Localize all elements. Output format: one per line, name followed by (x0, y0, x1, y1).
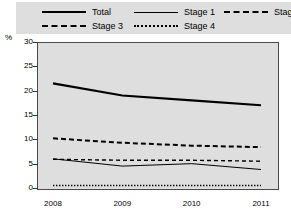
y-tick-label-30: 30 (5, 37, 33, 46)
y-tick-mark-10 (33, 139, 38, 140)
chart-screenshot: Total Stage 1 Stage 2 Stage 3 Stage 4 (0, 0, 291, 216)
series-line-stage-3 (53, 159, 261, 161)
legend-label-stage-3: Stage 3 (92, 21, 123, 31)
y-tick-mark-20 (33, 91, 38, 92)
legend-item-stage-3: Stage 3 (42, 19, 123, 33)
legend-row-1: Total Stage 1 Stage 2 (16, 5, 291, 19)
y-axis-tick-labels: 302520151050 (0, 0, 33, 216)
legend-label-stage-4: Stage 4 (184, 21, 215, 31)
chart-legend: Total Stage 1 Stage 2 Stage 3 Stage 4 (16, 2, 291, 34)
x-tick-label-2011: 2011 (241, 199, 281, 208)
series-line-stage-2 (53, 138, 261, 147)
solid-thin-line-icon (134, 7, 178, 17)
y-tick-label-5: 5 (5, 159, 33, 168)
y-tick-label-0: 0 (5, 183, 33, 192)
legend-item-stage-1: Stage 1 (134, 5, 215, 19)
x-tick-label-2009: 2009 (102, 199, 142, 208)
y-tick-mark-5 (33, 164, 38, 165)
solid-thick-line-icon (42, 7, 86, 17)
legend-label-stage-2: Stage 2 (274, 7, 291, 17)
x-tick-label-2010: 2010 (172, 199, 212, 208)
legend-item-total: Total (42, 5, 111, 19)
legend-row-2: Stage 3 Stage 4 (16, 19, 291, 33)
dashed-thin-line-icon (42, 21, 86, 31)
dashed-line-icon (224, 7, 268, 17)
y-tick-label-20: 20 (5, 86, 33, 95)
legend-item-stage-4: Stage 4 (134, 19, 215, 33)
x-tick-label-2008: 2008 (33, 199, 73, 208)
y-tick-mark-30 (33, 42, 38, 43)
y-tick-label-10: 10 (5, 134, 33, 143)
dotted-line-icon (134, 21, 178, 31)
legend-label-total: Total (92, 7, 111, 17)
series-line-total (53, 83, 261, 105)
chart-lines (37, 42, 277, 188)
y-tick-label-25: 25 (5, 61, 33, 70)
y-tick-mark-0 (33, 188, 38, 189)
legend-item-stage-2: Stage 2 (224, 5, 291, 19)
y-tick-label-15: 15 (5, 110, 33, 119)
legend-label-stage-1: Stage 1 (184, 7, 215, 17)
y-tick-mark-25 (33, 66, 38, 67)
y-tick-mark-15 (33, 115, 38, 116)
